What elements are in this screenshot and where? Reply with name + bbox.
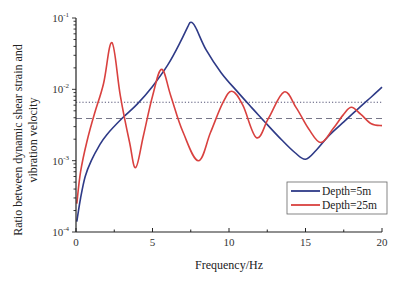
legend: Depth=5mDepth=25m [287,182,387,214]
y-axis-title-line2: vibration velocity [26,98,40,183]
y-tick-label: 10-1 [52,11,69,24]
chart-figure: 0510152010-410-310-210-1 Depth=5mDepth=2… [0,0,397,283]
x-tick-label: 10 [224,236,236,248]
y-tick-label: 10-2 [52,82,69,95]
y-tick-label: 10-4 [52,225,69,238]
x-tick-label: 5 [150,236,156,248]
x-tick-label: 0 [73,236,79,248]
chart-canvas: 0510152010-410-310-210-1 Depth=5mDepth=2… [0,0,397,283]
x-tick-label: 15 [300,236,312,248]
x-tick-label: 20 [377,236,389,248]
series-line-depth-25m [77,43,382,204]
legend-label: Depth=25m [322,199,377,212]
y-tick-label: 10-3 [52,154,69,167]
y-axis-title-line1: Ratio between dynamic shear strain and [11,44,25,236]
x-axis-title: Frequency/Hz [195,258,263,272]
legend-label: Depth=5m [322,185,371,198]
